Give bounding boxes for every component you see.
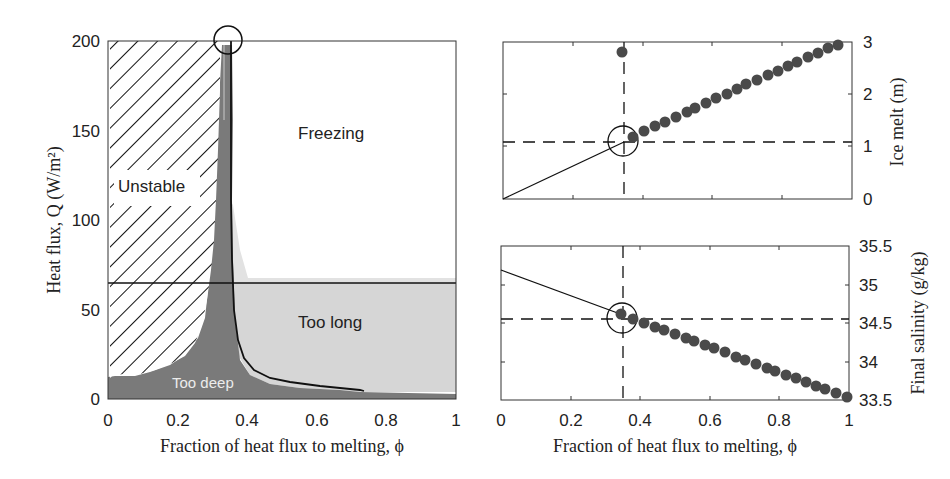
- ice-melt-ylabel: Ice melt (m): [887, 78, 908, 167]
- left-xtick: 0.4: [235, 411, 259, 430]
- too-deep-label: Too deep: [172, 374, 234, 391]
- ice-melt-markers: [617, 40, 844, 143]
- salinity-plot: 35.5 35 34.5 34 33.5 Final salinity (g/k…: [496, 237, 929, 456]
- left-ylabel: Heat flux, Q (W/m²): [44, 146, 65, 293]
- left-xtick: 0.8: [374, 411, 398, 430]
- left-ytick: 50: [81, 301, 100, 320]
- salinity-markers: [616, 309, 853, 403]
- left-phase-diagram: Unstable Freezing Too long Too deep 200 …: [44, 26, 461, 456]
- left-xtick: 0.2: [166, 411, 190, 430]
- figure: Unstable Freezing Too long Too deep 200 …: [0, 0, 950, 479]
- left-xlabel: Fraction of heat flux to melting, ϕ: [160, 436, 404, 456]
- salinity-xtick: 0: [496, 411, 505, 430]
- salinity-ytick: 33.5: [859, 391, 892, 410]
- salinity-xlabel: Fraction of heat flux to melting, ϕ: [553, 436, 797, 456]
- too-long-region: [229, 283, 456, 392]
- ice-melt-plot: 3 2 1 0 Ice melt (m): [503, 33, 908, 209]
- salinity-xtick: 0.4: [628, 411, 652, 430]
- left-ytick: 100: [72, 211, 100, 230]
- left-ytick: 150: [72, 122, 100, 141]
- salinity-ytick: 34: [859, 353, 878, 372]
- trend-line: [501, 270, 623, 315]
- ice-melt-ytick: 0: [863, 190, 872, 209]
- ice-melt-ytick: 2: [863, 85, 872, 104]
- salinity-ytick: 35.5: [859, 237, 892, 256]
- left-xtick: 1: [451, 411, 460, 430]
- salinity-xtick: 0.6: [698, 411, 722, 430]
- salinity-xtick: 0.2: [559, 411, 583, 430]
- salinity-xtick: 1: [844, 411, 853, 430]
- left-xtick: 0: [103, 411, 112, 430]
- ice-melt-ytick: 1: [863, 137, 872, 156]
- salinity-ytick: 35: [859, 276, 878, 295]
- unstable-label: Unstable: [118, 177, 185, 196]
- trend-line: [503, 142, 624, 199]
- salinity-ytick: 34.5: [859, 314, 892, 333]
- left-xtick: 0.6: [305, 411, 329, 430]
- too-long-label: Too long: [298, 313, 362, 332]
- salinity-xtick: 0.8: [767, 411, 791, 430]
- left-ytick: 0: [91, 390, 100, 409]
- salinity-ylabel: Final salinity (g/kg): [908, 252, 929, 395]
- ice-melt-ytick: 3: [863, 33, 872, 52]
- left-ytick: 200: [72, 32, 100, 51]
- freezing-label: Freezing: [298, 124, 364, 143]
